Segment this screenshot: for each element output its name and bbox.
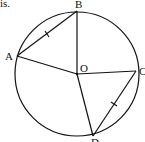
point-label-b: B bbox=[75, 0, 82, 10]
point-label-d: D bbox=[91, 137, 99, 142]
circle-diagram bbox=[0, 0, 145, 142]
center-dot bbox=[76, 73, 78, 75]
tick-mark-cd bbox=[111, 102, 117, 106]
point-label-a: A bbox=[5, 51, 13, 62]
center-label-o: O bbox=[80, 63, 88, 74]
radius-od bbox=[77, 74, 93, 136]
point-label-c: C bbox=[139, 66, 145, 77]
chord-cd bbox=[93, 71, 136, 136]
radius-oa bbox=[17, 56, 77, 74]
